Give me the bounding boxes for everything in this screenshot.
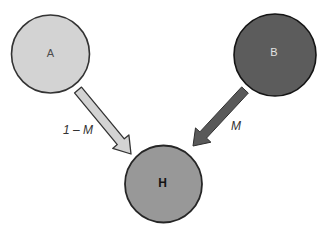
node-h-label: H [158,176,167,190]
node-a-label: A [47,47,55,59]
mixture-diagram: A B H 1 – M M [0,0,324,233]
edge-b-h-label: M [231,119,241,133]
node-b-label: B [270,46,278,58]
edge-a-h-label: 1 – M [63,123,93,137]
diagram-canvas: A B H 1 – M M [0,0,324,233]
